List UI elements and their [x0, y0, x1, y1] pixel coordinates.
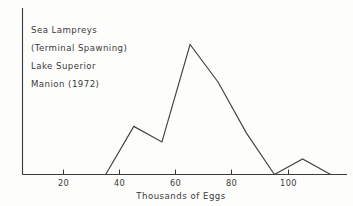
x-tick-label-20: 20 [58, 178, 69, 188]
annotation-line-1: Sea Lampreys [31, 25, 97, 35]
annotation-line-3: Lake Superior [31, 61, 96, 71]
x-tick-label-100: 100 [280, 178, 297, 188]
annotation-line-4: Manion (1972) [31, 79, 99, 89]
annotation-line-2: (Terminal Spawning) [31, 43, 127, 53]
x-tick-label-40: 40 [114, 178, 125, 188]
x-tick-label-60: 60 [170, 178, 181, 188]
x-axis-title: Thousands of Eggs [135, 191, 226, 201]
chart-figure: 20 40 60 80 100 Thousands of Eggs Sea La… [0, 0, 353, 206]
line-chart-svg: 20 40 60 80 100 Thousands of Eggs Sea La… [0, 0, 353, 206]
x-tick-label-80: 80 [226, 178, 237, 188]
data-series-line [106, 45, 331, 175]
